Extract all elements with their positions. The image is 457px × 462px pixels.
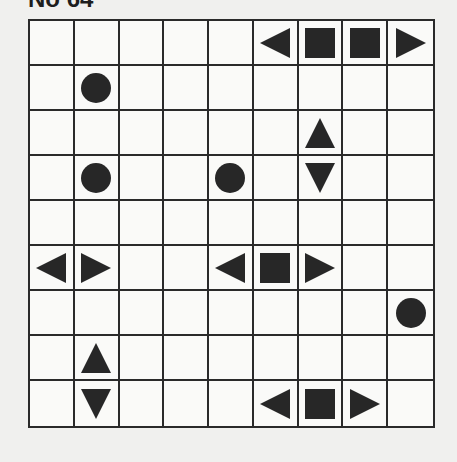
grid-cell-r6-c6[interactable] <box>299 291 344 336</box>
ship-right-end-icon <box>305 253 335 283</box>
grid-cell-r8-c5[interactable] <box>254 381 299 426</box>
grid-cell-r2-c8[interactable] <box>388 111 433 156</box>
grid-cell-r5-c4[interactable] <box>209 246 254 291</box>
grid-cell-r7-c7[interactable] <box>343 336 388 381</box>
ship-square-icon <box>350 28 380 58</box>
grid-cell-r8-c1[interactable] <box>75 381 120 426</box>
grid-cell-r6-c1[interactable] <box>75 291 120 336</box>
ship-square-icon <box>260 253 290 283</box>
grid-cell-r2-c3[interactable] <box>164 111 209 156</box>
grid-cell-r4-c4[interactable] <box>209 201 254 246</box>
ship-circle-icon <box>396 298 426 328</box>
ship-right-end-icon <box>350 389 380 419</box>
ship-square-icon <box>305 389 335 419</box>
ship-circle-icon <box>81 163 111 193</box>
ship-top-end-icon <box>305 118 335 148</box>
grid-cell-r3-c6[interactable] <box>299 156 344 201</box>
grid-cell-r2-c0[interactable] <box>30 111 75 156</box>
grid-cell-r5-c3[interactable] <box>164 246 209 291</box>
grid-cell-r0-c1[interactable] <box>75 21 120 66</box>
grid-cell-r0-c6[interactable] <box>299 21 344 66</box>
grid-cell-r0-c2[interactable] <box>120 21 165 66</box>
grid-cell-r0-c3[interactable] <box>164 21 209 66</box>
grid-cell-r6-c8[interactable] <box>388 291 433 336</box>
grid-cell-r8-c3[interactable] <box>164 381 209 426</box>
grid-cell-r0-c7[interactable] <box>343 21 388 66</box>
grid-cell-r6-c2[interactable] <box>120 291 165 336</box>
grid-cell-r7-c4[interactable] <box>209 336 254 381</box>
grid-cell-r3-c2[interactable] <box>120 156 165 201</box>
grid-cell-r4-c7[interactable] <box>343 201 388 246</box>
grid-cell-r5-c6[interactable] <box>299 246 344 291</box>
grid-cell-r2-c5[interactable] <box>254 111 299 156</box>
puzzle-title: No 64 <box>28 0 93 11</box>
grid-cell-r4-c2[interactable] <box>120 201 165 246</box>
grid-cell-r4-c8[interactable] <box>388 201 433 246</box>
grid-cell-r5-c8[interactable] <box>388 246 433 291</box>
grid-cell-r0-c0[interactable] <box>30 21 75 66</box>
grid-cell-r3-c3[interactable] <box>164 156 209 201</box>
grid-cell-r2-c4[interactable] <box>209 111 254 156</box>
grid-cell-r0-c5[interactable] <box>254 21 299 66</box>
ship-left-end-icon <box>215 253 245 283</box>
grid-cell-r3-c1[interactable] <box>75 156 120 201</box>
grid-cell-r7-c2[interactable] <box>120 336 165 381</box>
grid-cell-r3-c8[interactable] <box>388 156 433 201</box>
grid-cell-r8-c4[interactable] <box>209 381 254 426</box>
grid-cell-r1-c6[interactable] <box>299 66 344 111</box>
grid-cell-r0-c8[interactable] <box>388 21 433 66</box>
grid-cell-r5-c7[interactable] <box>343 246 388 291</box>
grid-cell-r7-c3[interactable] <box>164 336 209 381</box>
ship-right-end-icon <box>396 28 426 58</box>
grid-cell-r1-c0[interactable] <box>30 66 75 111</box>
ship-left-end-icon <box>36 253 66 283</box>
ship-top-end-icon <box>81 343 111 373</box>
grid-cell-r5-c1[interactable] <box>75 246 120 291</box>
grid-cell-r3-c4[interactable] <box>209 156 254 201</box>
grid-cell-r4-c6[interactable] <box>299 201 344 246</box>
grid-cell-r8-c0[interactable] <box>30 381 75 426</box>
grid-cell-r2-c6[interactable] <box>299 111 344 156</box>
grid-cell-r7-c8[interactable] <box>388 336 433 381</box>
grid-cell-r1-c4[interactable] <box>209 66 254 111</box>
grid-cell-r8-c2[interactable] <box>120 381 165 426</box>
grid-cell-r5-c5[interactable] <box>254 246 299 291</box>
grid-cell-r4-c5[interactable] <box>254 201 299 246</box>
grid-cell-r6-c0[interactable] <box>30 291 75 336</box>
grid-cell-r1-c3[interactable] <box>164 66 209 111</box>
grid-cell-r3-c7[interactable] <box>343 156 388 201</box>
grid-cell-r7-c0[interactable] <box>30 336 75 381</box>
ship-right-end-icon <box>81 253 111 283</box>
grid-cell-r1-c5[interactable] <box>254 66 299 111</box>
ship-left-end-icon <box>260 389 290 419</box>
grid-cell-r2-c2[interactable] <box>120 111 165 156</box>
grid-cell-r6-c3[interactable] <box>164 291 209 336</box>
grid-cell-r8-c6[interactable] <box>299 381 344 426</box>
grid-cell-r8-c8[interactable] <box>388 381 433 426</box>
grid-cell-r6-c7[interactable] <box>343 291 388 336</box>
ship-left-end-icon <box>260 28 290 58</box>
ship-bottom-end-icon <box>81 389 111 419</box>
grid-cell-r3-c0[interactable] <box>30 156 75 201</box>
grid-cell-r8-c7[interactable] <box>343 381 388 426</box>
grid-cell-r4-c1[interactable] <box>75 201 120 246</box>
grid-cell-r0-c4[interactable] <box>209 21 254 66</box>
grid-cell-r7-c1[interactable] <box>75 336 120 381</box>
grid-cell-r6-c5[interactable] <box>254 291 299 336</box>
grid-cell-r7-c5[interactable] <box>254 336 299 381</box>
grid-cell-r4-c3[interactable] <box>164 201 209 246</box>
ship-bottom-end-icon <box>305 163 335 193</box>
grid-cell-r5-c0[interactable] <box>30 246 75 291</box>
grid-cell-r3-c5[interactable] <box>254 156 299 201</box>
grid-cell-r1-c1[interactable] <box>75 66 120 111</box>
grid-cell-r6-c4[interactable] <box>209 291 254 336</box>
grid-cell-r1-c7[interactable] <box>343 66 388 111</box>
ship-circle-icon <box>215 163 245 193</box>
grid-cell-r7-c6[interactable] <box>299 336 344 381</box>
grid-cell-r5-c2[interactable] <box>120 246 165 291</box>
grid-cell-r2-c1[interactable] <box>75 111 120 156</box>
grid-cell-r2-c7[interactable] <box>343 111 388 156</box>
grid-cell-r1-c2[interactable] <box>120 66 165 111</box>
grid-cell-r1-c8[interactable] <box>388 66 433 111</box>
grid-cell-r4-c0[interactable] <box>30 201 75 246</box>
